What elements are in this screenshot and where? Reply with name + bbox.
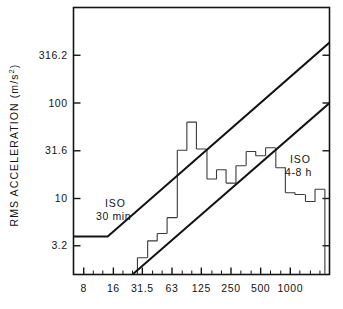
y-tick-label: 100 [48, 97, 67, 109]
plot-frame [74, 8, 330, 275]
iso-30min-label-line2: 30 min [96, 210, 131, 222]
x-tick-label: 63 [166, 282, 179, 294]
iso-4-8h-label-line2: 4-8 h [285, 166, 312, 178]
y-tick-label: 10 [55, 192, 68, 204]
plot-border [74, 8, 330, 275]
x-tick-label: 250 [221, 282, 240, 294]
x-tick-label: 31.5 [131, 282, 154, 294]
x-tick-label: 500 [251, 282, 270, 294]
y-axis-title-group: RMS ACCELERATION (m/s2) [7, 64, 21, 227]
chart-svg: 81631.5631252505001000316.210031.6103.2R… [0, 0, 343, 309]
chart-figure: 81631.5631252505001000316.210031.6103.2R… [0, 0, 343, 309]
iso-4-8h-label: ISO4-8 h [285, 153, 312, 178]
x-tick-labels: 81631.5631252505001000 [80, 282, 303, 294]
iso-30min-label-line1: ISO [105, 197, 126, 209]
y-tick-label: 3.2 [51, 239, 67, 251]
x-tick-label: 1000 [277, 282, 303, 294]
iso-4-8h-label-line1: ISO [290, 153, 311, 165]
x-tick-label: 16 [107, 282, 120, 294]
y-tick-label: 316.2 [39, 49, 68, 61]
x-tick-label: 8 [80, 282, 86, 294]
y-tick-labels: 316.210031.6103.2 [39, 49, 68, 251]
y-axis-title-text: RMS ACCELERATION (m/s2) [7, 64, 21, 227]
x-tick-label: 125 [192, 282, 211, 294]
y-tick-label: 31.6 [45, 144, 67, 156]
y-axis-title: RMS ACCELERATION (m/s2) [7, 64, 21, 227]
